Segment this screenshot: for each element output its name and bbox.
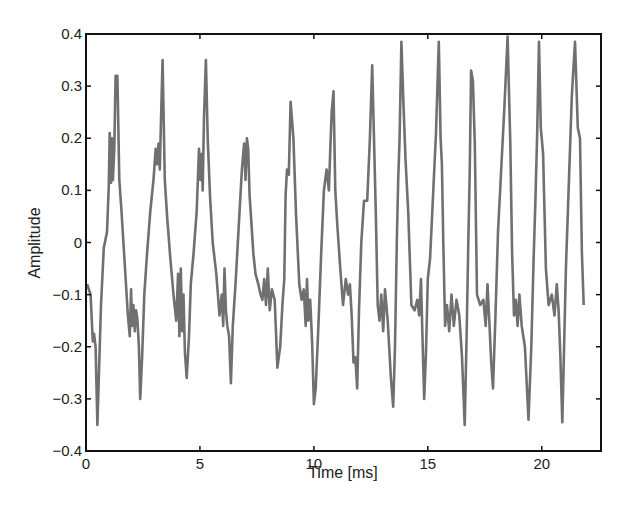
waveform-chart: 05101520 −0.4−0.3−0.2−0.100.10.20.30.4 T… [0,0,626,520]
y-tick-label: 0 [74,234,82,251]
y-tick-label: −0.2 [52,338,82,355]
x-tick-label: 0 [82,455,90,472]
y-tick-label: −0.4 [52,442,82,459]
y-axis-label: Amplitude [26,207,43,278]
x-axis-label: Time [ms] [308,464,378,481]
y-tick-label: 0.2 [61,129,82,146]
x-tick-label: 20 [533,455,550,472]
y-tick-label: −0.1 [52,286,82,303]
y-tick-label: 0.4 [61,25,82,42]
x-tick-label: 15 [419,455,436,472]
y-tick-labels: −0.4−0.3−0.2−0.100.10.20.30.4 [52,25,82,459]
signal-line [87,37,584,425]
y-tick-label: 0.3 [61,77,82,94]
y-tick-label: −0.3 [52,390,82,407]
y-tick-label: 0.1 [61,181,82,198]
x-tick-label: 5 [196,455,204,472]
